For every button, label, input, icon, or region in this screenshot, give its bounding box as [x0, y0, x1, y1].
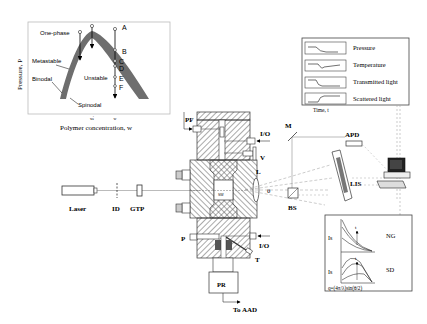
point-label-b: B	[122, 48, 127, 55]
experimental-setup-diagram: A B C D E F One-phase Metastable Binodal…	[0, 0, 427, 324]
phase-diagram-xlabel: Polymer concentration, w	[60, 124, 133, 132]
sd-label: SD	[386, 266, 395, 273]
ng-ylabel: Is	[328, 235, 333, 241]
view-cell: SW PR To AAD PF I	[176, 112, 271, 314]
point-label-d: D	[119, 65, 124, 72]
legend-temperature: Temperature	[353, 61, 386, 68]
label-gtp: GTP	[130, 205, 145, 213]
cell-label: SW	[218, 193, 224, 197]
label-lis: LIS	[350, 180, 361, 188]
scattering-xlabel: q=(4π/λ)sin(θ/2)	[328, 285, 362, 292]
label-bs: BS	[288, 204, 297, 212]
ng-label: NG	[386, 232, 396, 239]
legend-footer-time: Time, t	[313, 107, 329, 113]
point-label-c: C	[119, 58, 124, 65]
phase-diagram-ylabel: Pressure, P	[16, 59, 24, 90]
region-label-unstable: Unstable	[84, 75, 108, 81]
phase-diagram: A B C D E F One-phase Metastable Binodal…	[16, 22, 170, 132]
label-to-aad: To AAD	[233, 306, 257, 314]
point-label-e: E	[119, 75, 124, 82]
region-label-binodal: Binodal	[32, 76, 52, 82]
region-label-one-phase: One-phase	[40, 30, 70, 36]
label-io-bottom: I/O	[259, 242, 270, 250]
avalanche-photodiode	[346, 141, 362, 146]
mirror	[288, 132, 297, 141]
label-laser: Laser	[69, 205, 86, 213]
point-label-f: F	[119, 84, 123, 91]
x-tick-wc: wⱼ	[90, 116, 94, 121]
valve-handle	[253, 147, 256, 160]
label-io-top: I/O	[260, 130, 271, 138]
sample-chamber	[214, 180, 233, 200]
label-valve: V	[260, 154, 265, 162]
laser-body	[62, 186, 94, 195]
legend-scattered-light: Scattered light	[353, 95, 391, 102]
sd-ylabel: Is	[328, 269, 333, 275]
signal-legend-panel: Pressure Temperature Transmitted light S…	[302, 38, 409, 113]
region-label-metastable: Metastable	[32, 58, 62, 64]
glan-thompson-polarizer	[137, 185, 142, 196]
label-pr: PR	[217, 281, 226, 288]
label-pf: PF	[185, 116, 194, 124]
label-apd: APD	[345, 131, 359, 139]
computer-icon	[377, 158, 410, 188]
label-mirror: M	[285, 122, 292, 130]
label-p: P	[181, 235, 186, 243]
label-id: ID	[112, 205, 120, 213]
label-theta: θ	[267, 187, 271, 195]
legend-transmitted-light: Transmitted light	[353, 78, 398, 85]
scattering-panel: t t Is Is NG SD q=(4π/λ)sin(θ/2)	[325, 215, 412, 292]
label-t: T	[255, 256, 260, 264]
x-tick-w: w	[114, 116, 117, 121]
region-label-spinodal: Spinodal	[78, 102, 101, 108]
legend-pressure: Pressure	[353, 44, 375, 51]
label-lens: L	[256, 168, 261, 176]
point-label-a: A	[122, 24, 127, 31]
